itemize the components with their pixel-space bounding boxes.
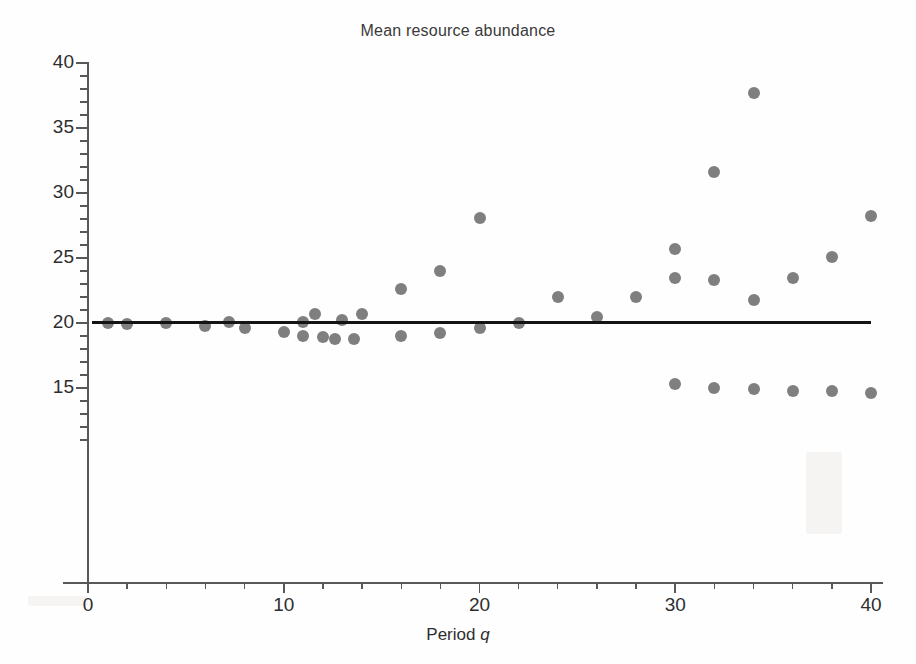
y-tick-minor bbox=[80, 166, 87, 167]
data-point bbox=[865, 210, 877, 222]
y-tick-minor bbox=[80, 101, 87, 102]
data-point bbox=[787, 272, 799, 284]
data-point bbox=[434, 265, 446, 277]
data-point bbox=[434, 327, 446, 339]
y-tick-major bbox=[76, 192, 87, 194]
y-axis-line bbox=[87, 62, 89, 585]
x-tick-label: 20 bbox=[450, 594, 510, 616]
x-axis-title: Period q bbox=[0, 625, 916, 645]
data-point bbox=[787, 385, 799, 397]
y-tick-label: 35 bbox=[14, 116, 74, 138]
y-tick-major bbox=[76, 62, 87, 64]
y-tick-minor bbox=[80, 283, 87, 284]
x-axis-title-text: Period bbox=[426, 625, 480, 644]
x-tick-major bbox=[870, 583, 872, 593]
data-point bbox=[669, 243, 681, 255]
y-tick-minor bbox=[80, 153, 87, 154]
y-tick-minor bbox=[80, 439, 87, 440]
data-point bbox=[297, 330, 309, 342]
x-tick-major bbox=[87, 583, 89, 593]
y-tick-minor bbox=[80, 179, 87, 180]
y-tick-minor bbox=[80, 88, 87, 89]
y-tick-major bbox=[76, 322, 87, 324]
x-tick-minor bbox=[557, 583, 558, 589]
plot-area: 152025303540010203040 bbox=[0, 0, 916, 664]
data-point bbox=[329, 333, 341, 345]
y-tick-minor bbox=[80, 244, 87, 245]
y-tick-minor bbox=[80, 335, 87, 336]
data-point bbox=[708, 274, 720, 286]
data-point bbox=[356, 308, 368, 320]
y-tick-label: 20 bbox=[14, 311, 74, 333]
x-tick-minor bbox=[518, 583, 519, 589]
x-axis-line bbox=[63, 582, 883, 584]
x-tick-minor bbox=[596, 583, 597, 589]
y-tick-label: 30 bbox=[14, 181, 74, 203]
x-tick-minor bbox=[792, 583, 793, 589]
x-tick-minor bbox=[244, 583, 245, 589]
x-tick-minor bbox=[714, 583, 715, 589]
data-point bbox=[474, 212, 486, 224]
y-tick-minor bbox=[80, 309, 87, 310]
y-tick-minor bbox=[80, 75, 87, 76]
y-tick-minor bbox=[80, 270, 87, 271]
x-tick-major bbox=[674, 583, 676, 593]
x-tick-minor bbox=[205, 583, 206, 589]
y-tick-major bbox=[76, 257, 87, 259]
x-tick-label: 40 bbox=[841, 594, 901, 616]
data-point bbox=[552, 291, 564, 303]
data-point bbox=[395, 330, 407, 342]
x-tick-major bbox=[283, 583, 285, 593]
data-point bbox=[708, 382, 720, 394]
data-point bbox=[748, 383, 760, 395]
data-point bbox=[630, 291, 642, 303]
y-tick-minor bbox=[80, 218, 87, 219]
x-tick-minor bbox=[401, 583, 402, 589]
data-point bbox=[317, 331, 329, 343]
data-point bbox=[669, 272, 681, 284]
y-tick-minor bbox=[80, 205, 87, 206]
data-point bbox=[395, 283, 407, 295]
x-tick-minor bbox=[361, 583, 362, 589]
x-tick-minor bbox=[322, 583, 323, 589]
data-point bbox=[309, 308, 321, 320]
data-point bbox=[826, 251, 838, 263]
y-tick-major bbox=[76, 387, 87, 389]
chart-figure: Mean resource abundance 1520253035400102… bbox=[0, 0, 916, 664]
y-tick-minor bbox=[80, 348, 87, 349]
x-tick-minor bbox=[753, 583, 754, 589]
data-point bbox=[748, 87, 760, 99]
data-point bbox=[826, 385, 838, 397]
y-tick-minor bbox=[80, 426, 87, 427]
x-tick-minor bbox=[831, 583, 832, 589]
data-point bbox=[278, 326, 290, 338]
y-tick-label: 25 bbox=[14, 246, 74, 268]
y-tick-minor bbox=[80, 140, 87, 141]
y-tick-label: 40 bbox=[14, 51, 74, 73]
data-point bbox=[348, 333, 360, 345]
x-tick-minor bbox=[440, 583, 441, 589]
data-point bbox=[865, 387, 877, 399]
x-tick-label: 30 bbox=[645, 594, 705, 616]
x-tick-minor bbox=[166, 583, 167, 589]
data-point bbox=[748, 294, 760, 306]
data-point bbox=[708, 166, 720, 178]
x-tick-minor bbox=[635, 583, 636, 589]
y-tick-minor bbox=[80, 400, 87, 401]
y-tick-major bbox=[76, 127, 87, 129]
trend-line bbox=[92, 321, 871, 324]
x-tick-label: 10 bbox=[254, 594, 314, 616]
y-tick-minor bbox=[80, 296, 87, 297]
x-tick-minor bbox=[126, 583, 127, 589]
x-tick-label: 0 bbox=[58, 594, 118, 616]
data-point bbox=[669, 378, 681, 390]
x-axis-title-variable: q bbox=[480, 625, 489, 644]
y-tick-minor bbox=[80, 413, 87, 414]
y-tick-minor bbox=[80, 374, 87, 375]
y-tick-label: 15 bbox=[14, 376, 74, 398]
y-tick-minor bbox=[80, 114, 87, 115]
y-tick-minor bbox=[80, 361, 87, 362]
y-tick-minor bbox=[80, 231, 87, 232]
x-tick-major bbox=[479, 583, 481, 593]
